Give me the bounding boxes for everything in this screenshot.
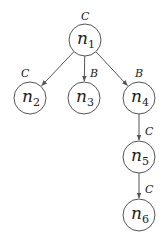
edge-label: C [145, 125, 154, 138]
node-tag: C [21, 67, 30, 80]
node-n3: n3 [68, 82, 100, 114]
node-n6: n6 [123, 199, 155, 231]
edge-label: B [89, 67, 98, 80]
node-tag: B [134, 67, 143, 80]
edge-n1-n4 [96, 52, 128, 86]
node-n5: n5 [123, 141, 155, 173]
edge-label: C [145, 183, 154, 196]
node-tag: C [81, 10, 90, 23]
node-n1: n1C [69, 10, 101, 56]
tree-diagram: BCC n1Cn2Cn3n4Bn5n6 [0, 0, 167, 245]
node-n4: n4B [123, 67, 155, 114]
nodes: n1Cn2Cn3n4Bn5n6 [14, 10, 155, 231]
node-n2: n2C [14, 67, 46, 114]
edge-n1-n2 [42, 52, 74, 86]
